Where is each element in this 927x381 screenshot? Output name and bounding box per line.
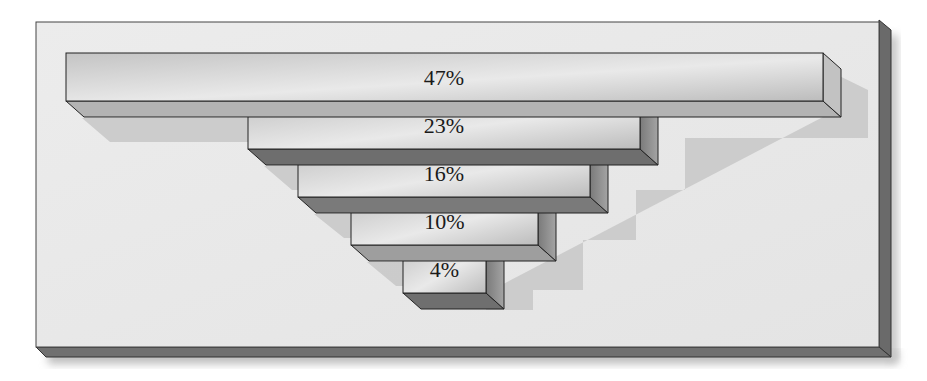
panel-bottom-edge xyxy=(36,347,891,357)
bar-bottom-face xyxy=(351,245,556,261)
funnel-chart: 4% 10% 16% 23% 47% xyxy=(0,0,927,381)
bar-label: 47% xyxy=(424,65,464,90)
bar-bottom-face xyxy=(248,149,658,165)
panel-right-edge xyxy=(879,20,891,357)
bar-bottom-face xyxy=(298,197,608,213)
